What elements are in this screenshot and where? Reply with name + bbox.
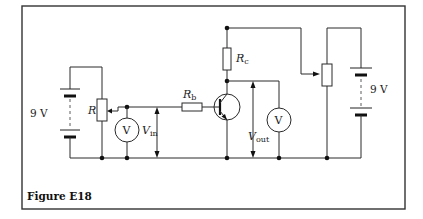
left-battery-label: 9 V: [30, 107, 48, 119]
v-in-label: Vin: [142, 124, 158, 138]
junction-dot: [325, 156, 330, 161]
junction-dot: [225, 156, 230, 161]
v-out-label: Vout: [248, 130, 270, 144]
npn-transistor: [213, 82, 240, 158]
input-voltmeter-symbol: V: [122, 124, 132, 137]
collector-resistor-label: Rc: [235, 52, 249, 66]
output-potentiometer: [322, 28, 361, 158]
output-voltmeter-symbol: V: [274, 114, 284, 127]
input-pot-label: R: [87, 104, 96, 117]
v-out-arrow: [251, 81, 256, 158]
base-resistor-label: Rb: [182, 88, 196, 102]
figure-caption: Figure E18: [27, 190, 92, 202]
junction-dot: [100, 156, 105, 161]
right-battery-label: 9 V: [370, 83, 388, 95]
junction-dot: [225, 26, 230, 31]
right-battery: [350, 68, 372, 158]
junction-dot: [125, 156, 130, 161]
circuit-diagram: 9 V R V Vin Rb: [0, 0, 423, 219]
junction-dot: [277, 156, 282, 161]
base-resistor: [182, 103, 213, 111]
